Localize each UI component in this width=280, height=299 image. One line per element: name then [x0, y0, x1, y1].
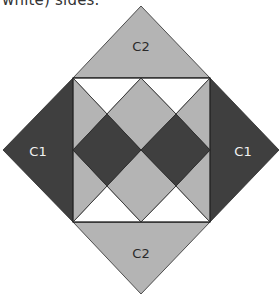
label-right-c1: C1: [234, 144, 251, 159]
label-bottom-c2: C2: [132, 246, 149, 261]
label-left-c1: C1: [29, 144, 46, 159]
quilt-block-diagram: C2 C1 C1 C2: [0, 0, 280, 299]
label-top-c2: C2: [132, 39, 149, 54]
